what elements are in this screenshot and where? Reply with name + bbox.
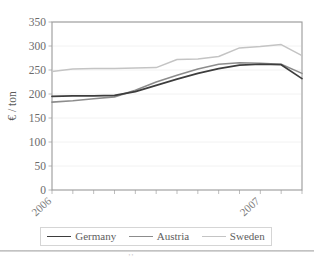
legend-label-austria: Austria: [157, 231, 189, 242]
chart-figure: 050100150200250300350€ / ton20062007 Ger…: [0, 0, 314, 259]
legend-label-sweden: Sweden: [230, 231, 265, 242]
y-axis-tick-label: 0: [40, 184, 46, 196]
y-axis-tick-label: 50: [35, 160, 47, 172]
y-axis-tick-label: 350: [29, 16, 47, 28]
series-line-sweden: [52, 45, 302, 72]
y-axis-tick-label: 250: [29, 64, 47, 76]
chart-legend: Germany Austria Sweden: [40, 227, 272, 246]
legend-item-sweden[interactable]: Sweden: [202, 231, 265, 242]
plot-area-border: [52, 22, 302, 190]
footer-divider: [0, 250, 314, 252]
chart-plot-container: 050100150200250300350€ / ton20062007: [0, 0, 314, 232]
line-chart-svg: 050100150200250300350€ / ton20062007: [0, 0, 314, 232]
legend-item-germany[interactable]: Germany: [47, 231, 116, 242]
y-axis-tick-label: 200: [29, 88, 47, 100]
y-axis-title: € / ton: [6, 91, 18, 121]
legend-label-germany: Germany: [75, 231, 116, 242]
legend-swatch-germany: [47, 236, 71, 237]
y-axis-tick-label: 100: [29, 136, 47, 148]
footer-mark: ’’: [128, 253, 135, 259]
y-axis-tick-label: 150: [29, 112, 47, 124]
legend-swatch-austria: [129, 236, 153, 237]
legend-item-austria[interactable]: Austria: [129, 231, 189, 242]
x-axis-tick-label: 2007: [237, 194, 262, 218]
x-axis-tick-label: 2006: [29, 194, 54, 218]
legend-swatch-sweden: [202, 236, 226, 237]
y-axis-tick-label: 300: [29, 40, 47, 52]
